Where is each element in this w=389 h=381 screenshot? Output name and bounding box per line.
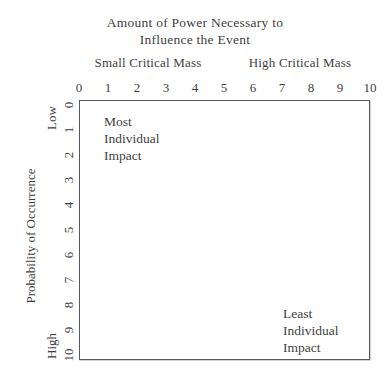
x-axis-group-high-critical-mass: High Critical Mass [240,55,360,71]
x-tick-6: 6 [241,79,265,96]
x-tick-3: 3 [154,79,178,96]
annotation-most-line-2: Individual [104,130,160,147]
y-axis-scale: 0 1 2 3 4 5 6 7 8 9 10 [60,100,78,360]
x-axis-scale: 0 1 2 3 4 5 6 7 8 9 10 [79,79,370,97]
x-tick-9: 9 [328,79,352,96]
annotation-most-line-3: Impact [104,147,160,164]
y-tick-10: 10 [60,334,78,376]
x-tick-8: 8 [299,79,323,96]
annotation-least-line-2: Individual [283,322,339,339]
chart-title: Amount of Power Necessary to Influence t… [60,14,330,48]
x-tick-2: 2 [125,79,149,96]
annotation-most-line-1: Most [104,113,160,130]
x-axis-group-small-critical-mass: Small Critical Mass [88,55,208,71]
y-axis-label-high: High [45,316,59,376]
annotation-most-individual-impact: Most Individual Impact [104,113,160,164]
x-tick-1: 1 [96,79,120,96]
x-tick-7: 7 [270,79,294,96]
annotation-least-line-3: Impact [283,339,339,356]
matrix-diagram-page: Amount of Power Necessary to Influence t… [0,0,389,381]
y-axis-label-low: Low [45,88,59,148]
x-tick-4: 4 [183,79,207,96]
x-tick-5: 5 [212,79,236,96]
y-axis-title: Probability of Occurrence [24,136,38,336]
chart-title-line-1: Amount of Power Necessary to [60,14,330,31]
annotation-least-line-1: Least [283,305,339,322]
matrix-plot-area: Most Individual Impact Least Individual … [79,100,370,360]
chart-title-line-2: Influence the Event [60,31,330,48]
x-tick-10: 10 [358,79,382,96]
annotation-least-individual-impact: Least Individual Impact [283,305,339,356]
